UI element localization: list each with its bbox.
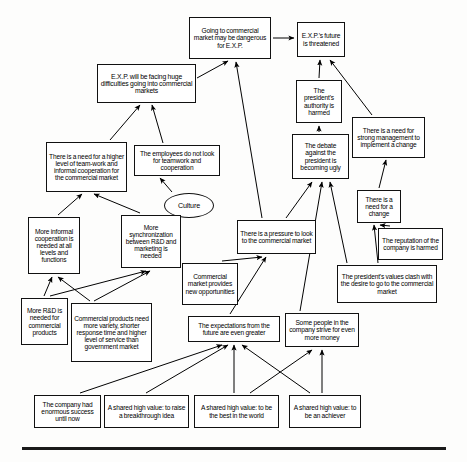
node-commercial-products-variety[interactable]: Commercial products need more variety, s… xyxy=(71,303,152,362)
node-need-strong-management[interactable]: There is a need for strong management to… xyxy=(352,117,425,158)
edge-more-rnd-needed-to-more-informal-cooperation xyxy=(44,277,52,296)
node-label: There is a pressure to look to the comme… xyxy=(240,230,313,244)
node-need-higher-teamwork[interactable]: There is a need for a higher level of te… xyxy=(46,142,127,192)
node-label: The reputation of the company is harmed xyxy=(381,237,440,251)
node-label: A shared high value: to raise a breakthr… xyxy=(107,404,186,418)
node-exp-facing-difficulties[interactable]: E.X.P. will be facing huge difficulties … xyxy=(97,64,196,103)
edge-commercial-market-opportunities-to-pressure-commercial-market xyxy=(222,257,262,261)
node-label: More informal cooperation is needed at a… xyxy=(31,228,77,264)
node-label: Commercial market provides new opportuni… xyxy=(185,273,235,294)
node-commercial-market-opportunities[interactable]: Commercial market provides new opportuni… xyxy=(182,263,238,305)
edge-exp-facing-difficulties-to-going-commercial-dangerous xyxy=(197,61,228,78)
node-label: The president's values clash with the de… xyxy=(340,273,434,294)
node-reputation-harmed[interactable]: The reputation of the company is harmed xyxy=(378,228,443,260)
node-label: E.X.P.'s future is threatened xyxy=(300,32,342,46)
edge-commercial-products-variety-to-more-synchronization xyxy=(94,271,150,301)
edge-more-informal-cooperation-to-need-higher-teamwork xyxy=(58,194,82,215)
node-label: The employees do not look for teamwork a… xyxy=(137,150,217,171)
edge-pressure-commercial-market-to-debate-becoming-ugly xyxy=(286,182,312,218)
node-value-best-in-world[interactable]: A shared high value: to be the best in t… xyxy=(194,395,279,428)
node-label: Commercial products need more variety, s… xyxy=(74,315,149,351)
node-label: Going to commercial market may be danger… xyxy=(192,27,268,48)
node-label: More synchronization between R&D and mar… xyxy=(124,224,178,260)
edge-employees-no-teamwork-to-exp-facing-difficulties xyxy=(152,105,163,143)
node-value-achiever[interactable]: A shared high value: to be an achiever xyxy=(289,395,361,428)
node-label: There is a need for a higher level of te… xyxy=(49,153,124,181)
edge-need-for-change-to-need-strong-management xyxy=(379,160,386,188)
node-label: Some people in the company strive for ev… xyxy=(288,319,356,340)
node-presidents-values-clash[interactable]: The president's values clash with the de… xyxy=(337,265,437,303)
node-label: E.X.P. will be facing huge difficulties … xyxy=(100,73,193,95)
node-label: Culture xyxy=(167,202,211,210)
node-value-breakthrough-idea[interactable]: A shared high value: to raise a breakthr… xyxy=(104,395,189,428)
node-label: The president's authority is harmed xyxy=(299,87,339,115)
edge-pressure-commercial-market-to-going-commercial-dangerous xyxy=(236,62,262,218)
edge-value-best-in-world-to-some-people-strive-money xyxy=(250,350,312,393)
node-more-rnd-needed[interactable]: More R&D is needed for commercial produc… xyxy=(21,298,68,345)
edge-culture-to-employees-no-teamwork xyxy=(160,178,172,192)
edge-value-breakthrough-idea-to-expectations-greater xyxy=(146,345,228,393)
node-label: There is a need for a change xyxy=(360,196,398,217)
node-exp-future-threatened[interactable]: E.X.P.'s future is threatened xyxy=(297,22,345,57)
diagram-canvas: Going to commercial market may be danger… xyxy=(0,0,467,462)
edge-more-rnd-needed-to-more-synchronization xyxy=(50,271,146,296)
edge-more-synchronization-to-need-higher-teamwork xyxy=(94,194,140,213)
node-label: A shared high value: to be an achiever xyxy=(292,404,358,418)
node-pressure-commercial-market[interactable]: There is a pressure to look to the comme… xyxy=(237,220,316,254)
node-label: The expectations from the future are eve… xyxy=(191,322,277,336)
edge-need-higher-teamwork-to-exp-facing-difficulties xyxy=(110,105,140,140)
node-some-people-strive-money[interactable]: Some people in the company strive for ev… xyxy=(285,313,359,347)
edge-reputation-harmed-to-need-for-change xyxy=(380,225,390,226)
node-presidents-authority-harmed[interactable]: The president's authority is harmed xyxy=(296,80,342,123)
node-more-informal-cooperation[interactable]: More informal cooperation is needed at a… xyxy=(28,217,80,274)
node-employees-no-teamwork[interactable]: The employees do not look for teamwork a… xyxy=(134,145,220,176)
node-going-commercial-dangerous[interactable]: Going to commercial market may be danger… xyxy=(189,17,271,59)
edge-value-achiever-to-expectations-greater xyxy=(242,345,310,393)
node-label: The company had enormous success until n… xyxy=(37,401,98,422)
node-label: The debate against the president is beco… xyxy=(295,142,346,170)
node-label: There is a need for strong management to… xyxy=(355,127,422,148)
node-expectations-greater[interactable]: The expectations from the future are eve… xyxy=(188,316,280,342)
bottom-divider-rule xyxy=(22,447,446,450)
node-label: A shared high value: to be the best in t… xyxy=(197,404,276,418)
edge-presidents-authority-harmed-to-exp-future-threatened xyxy=(319,60,320,78)
node-more-synchronization[interactable]: More synchronization between R&D and mar… xyxy=(121,215,181,268)
node-company-enormous-success[interactable]: The company had enormous success until n… xyxy=(34,395,101,428)
node-label: More R&D is needed for commercial produc… xyxy=(24,307,65,335)
node-need-for-change[interactable]: There is a need for a change xyxy=(357,190,401,223)
edge-presidents-values-clash-to-debate-becoming-ugly xyxy=(330,182,347,263)
node-debate-becoming-ugly[interactable]: The debate against the president is beco… xyxy=(292,134,349,179)
